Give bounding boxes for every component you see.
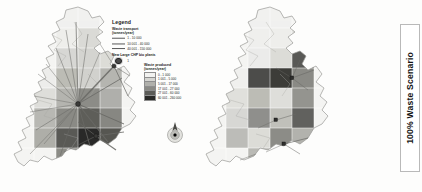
legend-point-label: 1: [127, 59, 129, 63]
legend-flow-label: 10 001 - 40 000: [127, 42, 149, 46]
chp-plant-icon: [112, 58, 125, 63]
scenario-label-band: 100% Waste Scenario: [400, 24, 420, 172]
legend-flow-label: 40 001 - 150 000: [127, 47, 151, 51]
legend-title: Legend: [112, 19, 156, 25]
legend-subtitle-line2: (tonnes/year): [112, 31, 156, 35]
map-canvas-digestate: [196, 4, 356, 188]
map-panel-digestate: Legend Digestate transport (tonnes/year)…: [196, 0, 386, 192]
figure-canvas: Legend Waste transport (tonnes/year) 1 -…: [0, 0, 422, 192]
swatch-label: 27 001 - 60 000: [158, 91, 180, 95]
legend-point-heading: New Large CHP bio plants: [112, 53, 156, 57]
legend-swatch-row: 60 001 - 260 000: [144, 96, 181, 100]
legend-flow-class: 1 - 10 000: [112, 36, 156, 40]
swatch-label: 60 001 - 260 000: [158, 96, 181, 100]
swatch-label: 5 001 - 17 000: [158, 82, 178, 86]
legend-flow-class: 10 001 - 40 000: [112, 41, 156, 45]
flow-line-medium-icon: [112, 42, 125, 46]
scenario-label-text: 100% Waste Scenario: [405, 52, 415, 144]
legend-swatch-list: 0 - 1 000 1 001 - 5 000 5 001 - 17 000 1…: [144, 73, 181, 100]
legend-flow-class: 40 001 - 150 000: [112, 46, 156, 50]
legend-subtitle: Waste transport (tonnes/year): [112, 27, 156, 35]
flow-line-thin-icon: [112, 36, 125, 40]
legend-choro-units: (tonnes/year): [144, 67, 181, 71]
legend-choropleth-waste: Waste produced (tonnes/year) 0 - 1 000 1…: [144, 63, 181, 100]
legend-flows-waste: Legend Waste transport (tonnes/year) 1 -…: [112, 19, 156, 64]
flow-line-thick-icon: [112, 47, 125, 51]
map-panel-waste: Legend Waste transport (tonnes/year) 1 -…: [4, 0, 194, 192]
swatch-label: 0 - 1 000: [158, 73, 170, 77]
north-arrow-icon: [164, 120, 186, 146]
legend-flow-label: 1 - 10 000: [127, 36, 141, 40]
legend-choro-heading: Waste produced (tonnes/year): [144, 63, 181, 71]
swatch-color: [144, 95, 156, 101]
swatch-label: 17 001 - 27 000: [158, 87, 180, 91]
swatch-label: 1 001 - 5 000: [158, 77, 176, 81]
